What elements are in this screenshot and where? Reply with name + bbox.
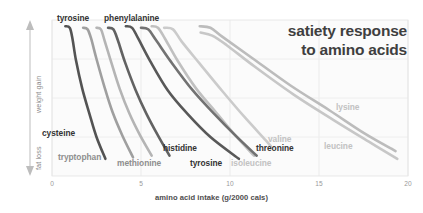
x-tick-label-10: 10 — [226, 180, 233, 187]
series-label-histidine: histidine — [163, 143, 197, 153]
x-tick-label-5: 5 — [139, 180, 143, 187]
series-label-lysine: lysine — [336, 102, 359, 112]
chart-title-line-2: to amino acids — [288, 41, 407, 60]
series-label-threonine: threonine — [256, 143, 294, 153]
series-label-isoleucine: isoleucine — [231, 158, 271, 168]
x-tick-label-15: 15 — [315, 180, 322, 187]
chart-figure: weight gain fat loss 05101520 amino acid… — [0, 0, 423, 213]
y-axis-label-fat-loss: fat loss — [34, 146, 43, 170]
y-axis: weight gain fat loss — [4, 18, 48, 178]
x-axis-title: amino acid intake (g/2000 cals) — [0, 193, 423, 202]
series-label-tyrosine: tyrosine — [190, 158, 222, 168]
chart-title-line-1: satiety response — [288, 22, 407, 41]
x-tick-label-0: 0 — [50, 180, 54, 187]
series-label-tyrosine: tyrosine — [57, 13, 89, 23]
series-label-leucine: leucine — [324, 141, 353, 151]
series-label-valine: valine — [268, 134, 291, 144]
series-label-tryptophan: tryptophan — [58, 152, 101, 162]
x-tick-label-20: 20 — [404, 180, 411, 187]
y-axis-label-weight-gain: weight gain — [34, 76, 43, 113]
series-label-phenylalanine: phenylalanine — [104, 13, 159, 23]
series-label-cysteine: cysteine — [42, 128, 75, 138]
chart-title: satiety response to amino acids — [288, 22, 407, 60]
series-label-methionine: methionine — [117, 158, 161, 168]
